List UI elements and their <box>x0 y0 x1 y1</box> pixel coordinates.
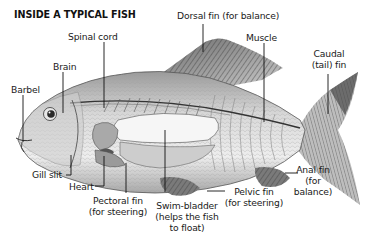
label-pelvic-line2: (for steering) <box>221 197 287 208</box>
label-heart: Heart <box>69 181 94 192</box>
label-anal-line3: balance) <box>289 186 337 197</box>
label-swim-line3: to float) <box>150 222 224 233</box>
label-pectoral-line1: Pectoral fin <box>86 195 150 206</box>
label-swim-bladder: Swim-bladder (helps the fish to float) <box>150 200 224 233</box>
label-pelvic-line1: Pelvic fin <box>221 186 287 197</box>
anal-fin <box>255 167 290 187</box>
label-brain: Brain <box>53 61 76 72</box>
label-anal-line2: (for <box>289 175 337 186</box>
label-swim-line2: (helps the fish <box>150 211 224 222</box>
label-pelvic-fin: Pelvic fin (for steering) <box>221 186 287 208</box>
label-caudal-line1: Caudal <box>308 48 350 59</box>
label-gill-slit: Gill slit <box>32 169 62 180</box>
label-barbel: Barbel <box>11 84 40 95</box>
label-pectoral-line2: (for steering) <box>86 206 150 217</box>
label-caudal-fin: Caudal (tail) fin <box>308 48 350 70</box>
label-spinal-cord: Spinal cord <box>68 31 118 42</box>
label-anal-line1: Anal fin <box>289 164 337 175</box>
label-swim-line1: Swim-bladder <box>150 200 224 211</box>
label-muscle: Muscle <box>246 32 277 43</box>
label-anal-fin: Anal fin (for balance) <box>289 164 337 197</box>
label-caudal-line2: (tail) fin <box>308 59 350 70</box>
label-dorsal-fin: Dorsal fin (for balance) <box>177 10 279 21</box>
page-title: INSIDE A TYPICAL FISH <box>14 9 136 20</box>
label-pectoral-fin: Pectoral fin (for steering) <box>86 195 150 217</box>
